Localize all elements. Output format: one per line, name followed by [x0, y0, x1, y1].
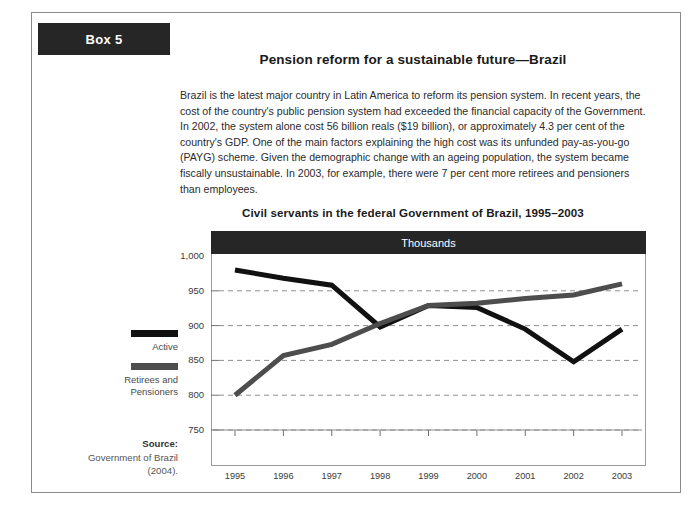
legend-label-active: Active	[74, 341, 178, 354]
data-series-group	[235, 270, 622, 395]
source-line: Government of Brazil	[42, 451, 178, 465]
box-content: Pension reform for a sustainable future—…	[180, 52, 646, 197]
legend-swatch-retirees-icon	[131, 363, 178, 370]
legend-item-active: Active	[74, 330, 178, 354]
series-line-active	[235, 270, 622, 362]
chart-units-label: Thousands	[401, 237, 455, 249]
legend-swatch-active-icon	[131, 330, 178, 337]
body-paragraph: Brazil is the latest major country in La…	[180, 88, 646, 197]
y-tick-label: 950	[170, 285, 204, 296]
y-tick-label: 750	[170, 424, 204, 435]
source-block: Source: Government of Brazil (2004).	[42, 437, 178, 478]
line-chart-plot	[211, 254, 646, 466]
y-tick-label: 1,000	[170, 250, 204, 261]
page-title: Pension reform for a sustainable future—…	[180, 52, 646, 67]
chart-legend: Active Retirees and Pensioners	[74, 330, 178, 408]
chart-title: Civil servants in the federal Government…	[180, 206, 646, 219]
x-tick-label: 2002	[552, 471, 596, 481]
x-tick-label: 1995	[213, 471, 257, 481]
series-line-retirees	[235, 284, 622, 395]
source-line: (2004).	[42, 464, 178, 478]
y-tick-marks-group	[211, 291, 219, 430]
x-tick-label: 2001	[503, 471, 547, 481]
x-tick-label: 1997	[310, 471, 354, 481]
box-number-text: Box 5	[86, 32, 123, 47]
chart-units-banner: Thousands	[211, 231, 646, 254]
x-tick-label: 2000	[455, 471, 499, 481]
x-tick-label: 1998	[358, 471, 402, 481]
legend-item-retirees: Retirees and Pensioners	[74, 363, 178, 399]
box-number-label: Box 5	[38, 23, 170, 55]
x-tick-label: 1996	[261, 471, 305, 481]
legend-label-retirees: Retirees and Pensioners	[74, 374, 178, 399]
x-tick-label: 1999	[407, 471, 451, 481]
y-tick-label: 900	[170, 320, 204, 331]
source-heading: Source:	[42, 437, 178, 451]
x-tick-label: 2003	[600, 471, 644, 481]
x-tick-marks-group	[213, 430, 642, 436]
